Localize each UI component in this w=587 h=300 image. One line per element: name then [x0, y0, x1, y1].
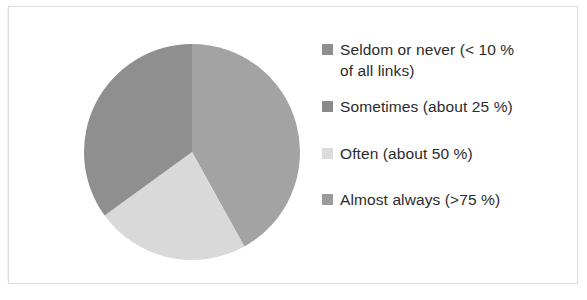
pie-chart-svg: [82, 42, 302, 262]
pie-chart: [82, 42, 302, 262]
legend-label-sometimes: Sometimes (about 25 %): [340, 97, 513, 118]
pie-slices: [84, 44, 300, 260]
legend-swatch-sometimes-icon: [322, 101, 333, 112]
legend-label-almost-always: Almost always (>75 %): [340, 190, 500, 211]
legend-swatch-almost-always-icon: [322, 194, 333, 205]
legend-swatch-often-icon: [322, 148, 333, 159]
legend-label-seldom-or-never: Seldom or never (< 10 % of all links): [340, 40, 514, 81]
screenshot-root: Seldom or never (< 10 % of all links) So…: [0, 0, 587, 300]
chart-legend: Seldom or never (< 10 % of all links) So…: [322, 40, 572, 227]
legend-item-sometimes[interactable]: Sometimes (about 25 %): [322, 97, 572, 118]
legend-item-seldom-or-never[interactable]: Seldom or never (< 10 % of all links): [322, 40, 572, 81]
legend-item-often[interactable]: Often (about 50 %): [322, 144, 572, 165]
legend-label-often: Often (about 50 %): [340, 144, 473, 165]
legend-swatch-seldom-icon: [322, 44, 333, 55]
legend-item-almost-always[interactable]: Almost always (>75 %): [322, 190, 572, 211]
